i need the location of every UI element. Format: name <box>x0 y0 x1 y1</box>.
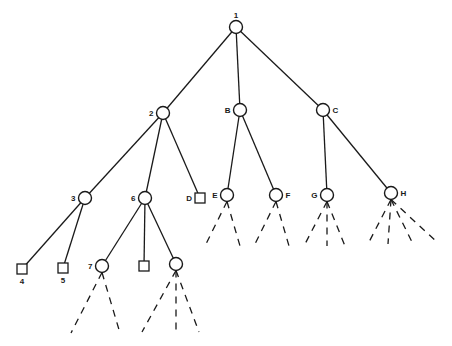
unexpanded-branch <box>71 273 102 334</box>
unexpanded-branch <box>227 202 240 247</box>
tree-edge <box>163 113 200 198</box>
nodes-layer: 12BC36DEFGH457 <box>17 11 407 287</box>
tree-edge <box>163 27 236 113</box>
tree-edge <box>240 110 276 195</box>
node-label: 4 <box>20 277 25 286</box>
node-label: 7 <box>88 262 93 271</box>
tree-edge <box>236 27 240 110</box>
square-node-shape <box>17 264 27 274</box>
unexpanded-branch <box>304 202 327 247</box>
circle-node-shape <box>170 258 183 271</box>
node-label: 6 <box>131 194 136 203</box>
tree-diagram: 12BC36DEFGH457 <box>0 0 452 346</box>
unexpanded-branch <box>391 200 438 244</box>
unexpanded-branch <box>388 200 391 245</box>
tree-edge <box>102 198 145 266</box>
node-label: B <box>225 106 231 115</box>
circle-node-shape <box>221 189 234 202</box>
tree-node-circle: 2 <box>149 107 169 120</box>
tree-node-terminal: D <box>186 193 205 203</box>
unexpanded-branch <box>205 202 227 247</box>
tree-node-circle: G <box>311 189 333 202</box>
tree-edge <box>22 198 85 269</box>
tree-edge <box>85 113 163 198</box>
circle-node-shape <box>321 189 334 202</box>
tree-node-terminal: 4 <box>17 264 27 286</box>
unexpanded-branch <box>327 202 345 247</box>
tree-node-circle: 1 <box>230 11 243 34</box>
tree-node-circle: E <box>212 189 233 202</box>
node-label: 3 <box>71 194 76 203</box>
tree-node-circle <box>170 258 183 271</box>
unexpanded-branch <box>276 202 289 247</box>
tree-node-circle: H <box>385 187 407 200</box>
tree-edge <box>227 110 240 195</box>
circle-node-shape <box>96 260 109 273</box>
tree-edge <box>323 110 327 195</box>
square-node-shape <box>195 193 205 203</box>
tree-node-circle: 3 <box>71 192 91 205</box>
tree-edge <box>145 198 176 264</box>
circle-node-shape <box>139 192 152 205</box>
node-label: F <box>286 191 291 200</box>
tree-node-terminal <box>139 261 149 271</box>
unexpanded-branch <box>368 200 391 245</box>
edges-layer <box>22 27 391 269</box>
node-label: E <box>212 191 218 200</box>
circle-node-shape <box>234 104 247 117</box>
square-node-shape <box>58 263 68 273</box>
tree-node-terminal: 5 <box>58 263 68 285</box>
unexpanded-branch <box>254 202 276 247</box>
node-label: 2 <box>149 109 154 118</box>
circle-node-shape <box>157 107 170 120</box>
node-label: H <box>401 189 407 198</box>
circle-node-shape <box>79 192 92 205</box>
tree-edge <box>145 113 163 198</box>
circle-node-shape <box>270 189 283 202</box>
tree-edge <box>323 110 391 193</box>
circle-node-shape <box>230 21 243 34</box>
unexpanded-branch <box>391 200 413 245</box>
tree-edge <box>144 198 145 266</box>
tree-node-circle: 6 <box>131 192 151 205</box>
node-label: 5 <box>61 276 66 285</box>
tree-node-circle: B <box>225 104 247 117</box>
node-label: G <box>311 191 317 200</box>
unexpanded-branch <box>142 271 176 333</box>
tree-edge <box>63 198 85 268</box>
tree-node-circle: F <box>270 189 291 202</box>
node-label: C <box>333 106 339 115</box>
unexpanded-branch <box>176 271 199 333</box>
tree-node-circle: C <box>317 104 339 117</box>
unexpanded-branches-layer <box>71 200 438 334</box>
tree-node-circle: 7 <box>88 260 108 273</box>
tree-edge <box>236 27 323 110</box>
unexpanded-branch <box>102 273 120 334</box>
node-label: D <box>186 194 192 203</box>
square-node-shape <box>139 261 149 271</box>
node-label: 1 <box>234 11 239 20</box>
circle-node-shape <box>385 187 398 200</box>
circle-node-shape <box>317 104 330 117</box>
